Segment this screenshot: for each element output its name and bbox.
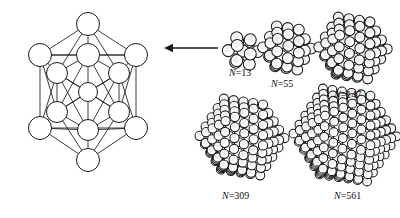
cluster-label-n13-symbol: N <box>229 67 236 78</box>
cluster-label-n147-symbol: N <box>334 89 341 100</box>
cluster-label-n309: N=309 <box>222 190 249 201</box>
cluster-label-n13-value: 13 <box>241 67 251 78</box>
cluster-label-n55-symbol: N <box>271 78 278 89</box>
cluster-label-n561: N=561 <box>334 190 361 201</box>
cluster-label-n561-symbol: N <box>334 190 341 201</box>
cluster-label-n55: N=55 <box>271 78 293 89</box>
cluster-label-n147: N=147 <box>334 89 361 100</box>
cluster-label-n147-value: 147 <box>346 89 361 100</box>
cluster-label-n309-value: 309 <box>234 190 249 201</box>
cluster-label-n561-value: 561 <box>346 190 361 201</box>
cluster-models <box>0 0 400 218</box>
cluster-size-figure: N=13 N=55 N=147 N=309 N=561 <box>0 0 400 218</box>
cluster-label-n55-value: 55 <box>283 78 293 89</box>
cluster-label-n309-symbol: N <box>222 190 229 201</box>
cluster-label-n13: N=13 <box>229 67 251 78</box>
